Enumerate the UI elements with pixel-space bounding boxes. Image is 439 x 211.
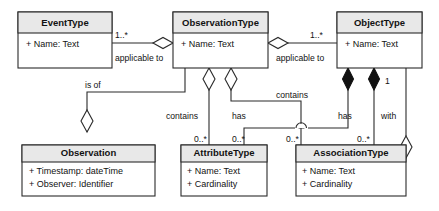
aggregation-diamond-hollow-observation	[81, 110, 93, 132]
class-attribute-observation-type-0: + Name: Text	[181, 39, 235, 49]
composition-diamond-filled-has-associationtype	[369, 68, 380, 90]
multiplicity-eventtype-observationtype: 1..*	[115, 30, 129, 40]
label-applicable-to-left: applicable to	[115, 53, 163, 63]
edge-line-is-of	[87, 68, 185, 132]
edge-observationtype-observation	[81, 68, 185, 132]
class-name-observation: Observation	[61, 147, 117, 158]
class-name-association-type: AssociationType	[313, 147, 388, 158]
multiplicity-with-objecttype: 1	[385, 76, 390, 86]
class-name-event-type: EventType	[41, 17, 88, 28]
class-box-event-type[interactable]: EventType + Name: Text	[18, 12, 112, 68]
class-box-observation[interactable]: Observation + Timestamp: dateTime + Obse…	[22, 145, 155, 196]
class-name-object-type: ObjectType	[354, 17, 405, 28]
uml-diagram-svg: 1..* applicable to 1..* applicable to is…	[0, 0, 439, 211]
class-attribute-event-type-0: + Name: Text	[26, 39, 80, 49]
label-contains-left: contains	[166, 111, 198, 121]
edge-objecttype-observationtype	[268, 38, 337, 49]
multiplicity-contains-associationtype: 0..*	[286, 134, 300, 144]
multiplicity-objecttype-observationtype: 1..*	[310, 30, 324, 40]
aggregation-diamond-hollow-contains-attributetype	[203, 68, 215, 90]
label-with: with	[380, 111, 397, 121]
class-attribute-attribute-type-0: + Name: Text	[187, 166, 241, 176]
class-name-observation-type: ObservationType	[182, 17, 259, 28]
label-applicable-to-right: applicable to	[276, 53, 324, 63]
class-attribute-association-type-0: + Name: Text	[302, 166, 356, 176]
label-is-of: is of	[85, 80, 101, 90]
multiplicity-contains-attributetype: 0..*	[194, 134, 208, 144]
composition-diamond-filled-has-attributetype	[343, 68, 354, 90]
class-box-association-type[interactable]: AssociationType + Name: Text + Cardinali…	[296, 145, 406, 196]
class-attribute-observation-1: + Observer: Identifier	[29, 179, 113, 189]
class-box-object-type[interactable]: ObjectType + Name: Text	[337, 12, 422, 68]
class-box-attribute-type[interactable]: AttributeType + Name: Text + Cardinality	[181, 145, 267, 196]
aggregation-diamond-hollow-contains-associationtype	[225, 68, 237, 90]
label-has-right: has	[338, 111, 352, 121]
class-name-attribute-type: AttributeType	[193, 147, 254, 158]
class-attribute-object-type-0: + Name: Text	[345, 39, 399, 49]
class-box-observation-type[interactable]: ObservationType + Name: Text	[173, 12, 268, 68]
label-contains-right: contains	[276, 90, 308, 100]
uml-diagram-canvas: 1..* applicable to 1..* applicable to is…	[0, 0, 439, 211]
class-attribute-observation-0: + Timestamp: dateTime	[29, 166, 123, 176]
multiplicity-has-associationtype: 0..*	[357, 134, 371, 144]
label-has-left: has	[232, 111, 246, 121]
class-attribute-attribute-type-1: + Cardinality	[187, 179, 238, 189]
aggregation-diamond-hollow-observationtype-right	[268, 38, 288, 49]
multiplicity-has-attributetype: 0..*	[232, 134, 246, 144]
class-attribute-association-type-1: + Cardinality	[302, 179, 353, 189]
aggregation-diamond-hollow-observationtype-left	[153, 38, 173, 49]
